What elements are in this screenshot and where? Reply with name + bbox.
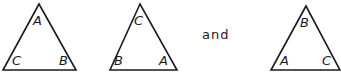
triangle-1-bottom-right-label: B bbox=[59, 53, 68, 68]
triangle-3-bottom-left-label: A bbox=[279, 53, 289, 68]
triangle-orientations-diagram: A C B C B A and B A C bbox=[0, 0, 341, 81]
triangle-2: C B A bbox=[110, 4, 177, 70]
triangle-3-bottom-right-label: C bbox=[322, 53, 332, 68]
triangle-2-top-label: C bbox=[134, 13, 144, 28]
triangle-3-top-label: B bbox=[300, 15, 309, 30]
triangle-2-bottom-right-label: A bbox=[158, 53, 168, 68]
triangle-1-bottom-left-label: C bbox=[12, 53, 22, 68]
triangle-1: A C B bbox=[3, 4, 76, 70]
connector-word: and bbox=[202, 27, 229, 42]
triangle-2-bottom-left-label: B bbox=[114, 53, 123, 68]
triangle-3: B A C bbox=[271, 6, 340, 70]
triangle-1-top-label: A bbox=[32, 13, 42, 28]
